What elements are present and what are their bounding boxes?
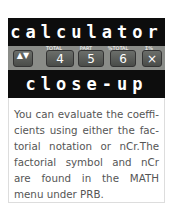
header-banner: calculator ▲▼ TOTAL 4 PART 5 %TOTAL 6 Σ%… (8, 18, 165, 98)
title-close-up: close-up (8, 74, 165, 94)
key-multiply: × (142, 50, 162, 67)
key-4: 4 (46, 50, 74, 67)
calculator-key-strip: ▲▼ TOTAL 4 PART 5 %TOTAL 6 Σ% × (8, 46, 165, 70)
arrow-key-icon: ▲▼ (13, 50, 33, 67)
key-5: 5 (78, 50, 104, 67)
key-6: 6 (110, 50, 136, 67)
body-text: You can evaluate the coeffi-cients using… (14, 106, 159, 202)
title-calculator: calculator (8, 22, 165, 42)
